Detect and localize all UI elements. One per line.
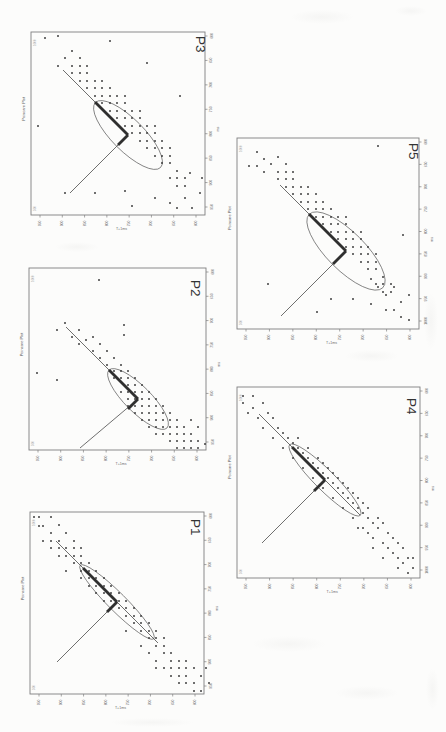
scatter-point (176, 433, 178, 435)
bottom-tick-label: 700 (362, 584, 366, 590)
scan-noise (335, 686, 399, 700)
scatter-point (370, 303, 372, 305)
scatter-point (131, 132, 133, 134)
corner-annotation: 1000 (33, 39, 37, 46)
bottom-tick-label: 850 (83, 221, 87, 227)
scatter-point (124, 95, 126, 97)
scatter-point (78, 329, 80, 331)
scatter-point (141, 405, 143, 407)
scatter-point (316, 311, 318, 313)
scatter-point (292, 193, 294, 195)
right-tick-label: 750 (425, 455, 429, 461)
scatter-point (262, 427, 264, 429)
sd-bar (292, 447, 325, 480)
scatter-point (169, 440, 171, 442)
scatter-point (110, 600, 112, 602)
right-tick-label: 750 (209, 586, 213, 592)
plot-svg-P5: 950900850800750700650600T+1ms60065070075… (225, 130, 443, 357)
scatter-point (99, 357, 101, 359)
scatter-point (292, 186, 294, 188)
scatter-point (155, 419, 157, 421)
scatter-point (342, 492, 344, 494)
scatter-point (106, 350, 108, 352)
scatter-point (161, 155, 163, 157)
scatter-point (140, 630, 142, 632)
scatter-point (191, 207, 193, 209)
scan-noise (395, 6, 427, 16)
scatter-point (42, 525, 44, 527)
scatter-point (170, 660, 172, 662)
scatter-point (292, 171, 294, 173)
scatter-point (110, 585, 112, 587)
scatter-point (185, 660, 187, 662)
bottom-tick-label: 950 (244, 584, 248, 590)
scatter-point (109, 87, 111, 89)
scatter-point (360, 238, 362, 240)
corner-annotation: 1000 (32, 519, 36, 526)
scatter-point (176, 207, 178, 209)
scatter-point (125, 615, 127, 617)
scatter-point (170, 675, 172, 677)
scatter-point (92, 350, 94, 352)
scatter-point (127, 398, 129, 400)
right-tick-label: 800 (424, 229, 428, 235)
scatter-point (162, 433, 164, 435)
right-axis-label: ms (216, 126, 220, 131)
scatter-point (123, 324, 125, 326)
panel-label: P4 (404, 398, 419, 415)
scatter-point (377, 145, 379, 147)
scatter-point (332, 497, 334, 499)
scatter-point (337, 477, 339, 479)
scatter-point (155, 433, 157, 435)
plot-title: Poincare Plot (22, 96, 27, 121)
scatter-point (272, 417, 274, 419)
scatter-point (146, 140, 148, 142)
scatter-point (116, 117, 118, 119)
scatter-point (252, 395, 254, 397)
scatter-point (148, 398, 150, 400)
scatter-point (58, 540, 60, 542)
scatter-point (367, 532, 369, 534)
scatter-point (412, 557, 414, 559)
corner-annotation: 1000 (239, 145, 243, 152)
scatter-point (397, 557, 399, 559)
right-tick-label: 1000 (424, 317, 428, 325)
scatter-point (190, 419, 192, 421)
scatter-point (412, 567, 414, 569)
scatter-point (397, 542, 399, 544)
scatter-point (155, 660, 157, 662)
scatter-point (200, 690, 202, 692)
scatter-point (94, 192, 96, 194)
scatter-point (315, 216, 317, 218)
scatter-point (408, 319, 410, 321)
scatter-point (345, 231, 347, 233)
bottom-tick-label: 650 (172, 456, 176, 462)
scatter-point (134, 405, 136, 407)
scatter-point (382, 283, 384, 285)
scatter-point (272, 437, 274, 439)
scatter-point (124, 125, 126, 127)
scatter-point (197, 447, 199, 449)
scatter-point (370, 278, 372, 280)
scatter-point (170, 652, 172, 654)
scatter-point (330, 216, 332, 218)
scatter-point (193, 667, 195, 669)
sd-bar (95, 102, 128, 135)
right-axis-label: ms (215, 606, 219, 611)
scatter-point (50, 547, 52, 549)
scatter-point (37, 125, 39, 127)
scatter-point (285, 178, 287, 180)
scatter-point (79, 72, 81, 74)
scatter-point (297, 437, 299, 439)
scatter-point (169, 419, 171, 421)
right-tick-label: 800 (211, 366, 215, 372)
scatter-point (357, 497, 359, 499)
scatter-point (116, 102, 118, 104)
scatter-point (185, 682, 187, 684)
scatter-point (85, 339, 87, 341)
scatter-point (95, 592, 97, 594)
scatter-point (285, 171, 287, 173)
scatter-point (134, 384, 136, 386)
right-tick-label: 750 (424, 206, 428, 212)
scatter-point (322, 223, 324, 225)
